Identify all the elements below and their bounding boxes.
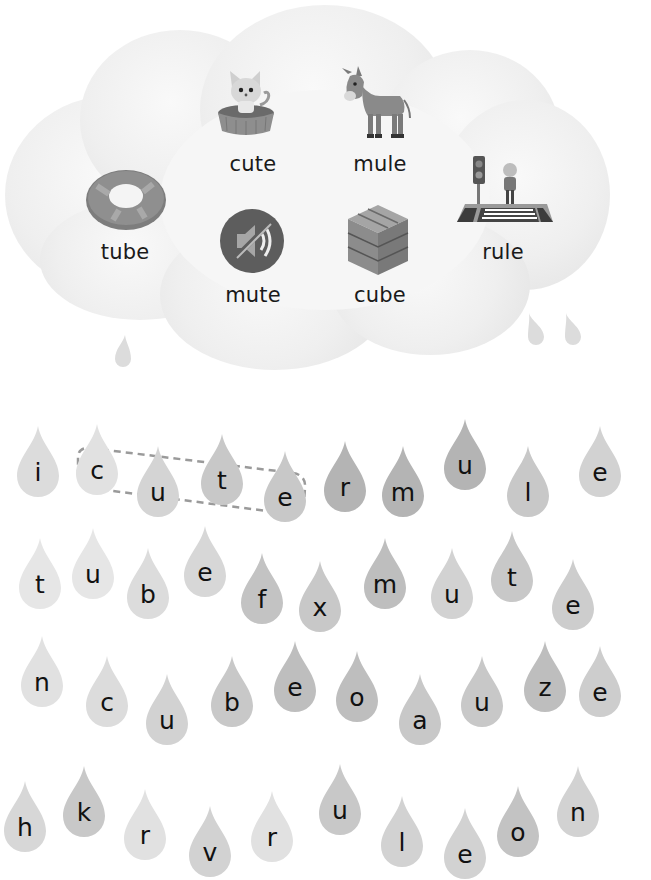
letter-drop[interactable]: e [577,424,623,498]
letter-drop[interactable]: b [209,654,255,728]
letter-drop[interactable]: k [61,764,107,838]
word-label-mute: mute [225,283,281,307]
letter-drop[interactable]: t [489,529,535,603]
letter-drop[interactable]: m [362,536,408,610]
drop-letter: e [442,842,488,867]
drop-letter: v [187,840,233,865]
drop-letter: b [209,690,255,715]
letter-drop[interactable]: t [199,432,245,506]
drop-letter: c [74,458,120,483]
letter-drop[interactable]: i [15,424,61,498]
drop-letter: o [334,685,380,710]
letter-drop[interactable]: h [2,779,48,853]
drop-letter: e [262,485,308,510]
letter-drop[interactable]: u [135,444,181,518]
mute-speaker-icon [219,208,285,274]
letter-drop[interactable]: u [442,417,488,491]
letter-drop[interactable]: u [429,546,475,620]
letter-drop[interactable]: t [17,536,63,610]
letter-drop[interactable]: o [495,784,541,858]
drop-letter: b [125,582,171,607]
letter-drop[interactable]: e [442,806,488,880]
drop-letter: x [297,595,343,620]
letter-drop[interactable]: u [317,762,363,836]
drop-letter: n [19,670,65,695]
letter-drop[interactable]: z [522,639,568,713]
letter-drop[interactable]: v [187,804,233,878]
drip-icon [563,313,583,347]
drop-letter: m [380,480,426,505]
drop-letter: f [239,587,285,612]
letter-drop[interactable]: e [182,524,228,598]
letter-drop[interactable]: r [122,787,168,861]
drop-letter: t [17,572,63,597]
letter-drop[interactable]: b [125,546,171,620]
word-label-rule: rule [482,240,524,264]
letter-drop[interactable]: e [272,639,318,713]
drop-letter: u [135,480,181,505]
drop-letter: a [397,708,443,733]
letter-drop[interactable]: e [262,449,308,523]
drop-letter: u [317,798,363,823]
word-cloud: cute mule tube rule mute cube [0,0,651,380]
drip-icon [526,313,546,347]
letter-drop[interactable]: c [74,422,120,496]
letter-drop[interactable]: u [70,526,116,600]
letter-drop[interactable]: r [322,439,368,513]
drop-letter: m [362,572,408,597]
letter-drop[interactable]: e [577,644,623,718]
drop-letter: e [272,675,318,700]
word-label-cube: cube [354,283,406,307]
drop-letter: i [15,460,61,485]
drop-letter: c [84,690,130,715]
drop-letter: r [249,825,295,850]
drop-letter: r [322,475,368,500]
word-label-mule: mule [353,152,406,176]
drop-letter: t [489,565,535,590]
letter-drop[interactable]: o [334,649,380,723]
drip-icon [113,335,133,369]
word-label-cute: cute [230,152,277,176]
drop-letter: o [495,820,541,845]
crosswalk-traffic-light-icon [455,152,555,232]
letter-drop[interactable]: u [459,654,505,728]
letter-drop[interactable]: e [550,557,596,631]
drop-letter: l [379,830,425,855]
kitten-in-basket-icon [216,65,278,137]
donkey-icon [340,62,414,140]
letter-drop[interactable]: u [144,672,190,746]
drop-letter: e [550,593,596,618]
drop-letter: r [122,823,168,848]
drop-letter: k [61,800,107,825]
drop-letter: u [429,582,475,607]
swim-ring-icon [83,168,169,232]
letter-drop[interactable]: l [379,794,425,868]
letter-drop[interactable]: f [239,551,285,625]
drop-letter: e [182,560,228,585]
letter-drop[interactable]: m [380,444,426,518]
letter-drop[interactable]: x [297,559,343,633]
letter-drop[interactable]: n [19,634,65,708]
drop-letter: u [144,708,190,733]
word-label-tube: tube [101,240,150,264]
letter-drop[interactable]: n [555,764,601,838]
letter-drop[interactable]: l [505,444,551,518]
drop-letter: z [522,675,568,700]
drop-letter: h [2,815,48,840]
cube-box-icon [346,203,410,277]
drop-letter: e [577,680,623,705]
letter-drop[interactable]: r [249,789,295,863]
drop-letter: e [577,460,623,485]
drop-letter: n [555,800,601,825]
drop-letter: u [459,690,505,715]
drop-letter: u [70,562,116,587]
drop-letter: u [442,453,488,478]
letter-drop[interactable]: c [84,654,130,728]
drop-letter: l [505,480,551,505]
letter-drop[interactable]: a [397,672,443,746]
drop-letter: t [199,468,245,493]
